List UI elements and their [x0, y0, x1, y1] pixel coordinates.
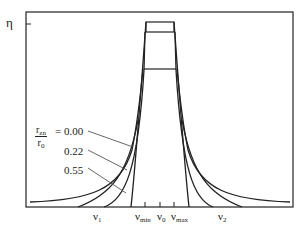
curve-r022: [104, 32, 213, 207]
curve-r022-tail: [78, 120, 242, 207]
chart-canvas: [0, 0, 304, 233]
plot-frame: [26, 12, 293, 207]
x-label-nu2: ν2: [218, 211, 226, 222]
legend-value-000: 0.00: [64, 126, 83, 137]
legend-value-022: 0.22: [64, 146, 83, 157]
y-axis-label: η: [6, 16, 13, 29]
x-label-numax: νmax: [171, 211, 188, 222]
legend-value-055: 0.55: [64, 165, 83, 176]
legend-fraction: rzn r0: [35, 125, 47, 148]
x-label-nu0: ν0: [157, 211, 165, 222]
fraction-numerator: rzn: [35, 125, 47, 137]
x-label-numin: νmin: [135, 211, 151, 222]
plateau-rect: [146, 22, 174, 32]
x-label-nu1: ν1: [93, 211, 101, 222]
legend-equals: =: [55, 126, 61, 137]
fraction-denominator: r0: [38, 137, 45, 148]
curve-r000: [131, 22, 189, 207]
